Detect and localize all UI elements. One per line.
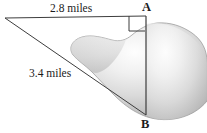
figure-container: 2.8 miles 3.4 miles A B [0,0,207,133]
lake-shape [71,23,207,120]
triangle-side-top [5,16,146,18]
vertex-label-a: A [142,1,151,14]
vertex-label-b: B [141,118,149,131]
label-hypotenuse: 3.4 miles [29,68,71,80]
label-top-side: 2.8 miles [50,3,92,15]
